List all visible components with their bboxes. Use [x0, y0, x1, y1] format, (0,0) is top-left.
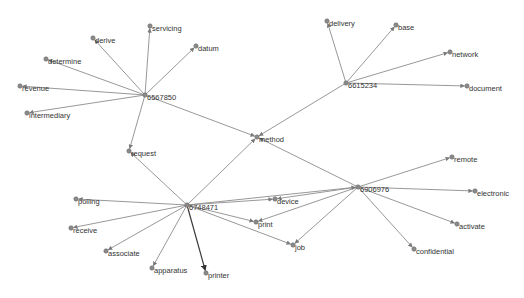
- edge-6906976-job: [295, 187, 358, 243]
- node-6906976[interactable]: 6906976: [356, 185, 389, 194]
- node-network[interactable]: network: [448, 50, 479, 59]
- node-label: servicing: [152, 24, 182, 33]
- node-label: job: [294, 243, 305, 252]
- node-datum[interactable]: datum: [194, 44, 219, 53]
- edge-6906976-method: [259, 138, 358, 187]
- node-label: method: [259, 135, 284, 144]
- node-method[interactable]: method: [255, 135, 284, 144]
- edge-6906976-remote: [358, 158, 450, 187]
- node-label: network: [452, 50, 479, 59]
- node-remote[interactable]: remote: [450, 155, 478, 164]
- node-electronic[interactable]: electronic: [473, 189, 510, 198]
- node-6567850[interactable]: 6567850: [143, 93, 176, 102]
- node-device[interactable]: device: [273, 197, 299, 206]
- node-6748471[interactable]: 6748471: [185, 203, 218, 212]
- node-base[interactable]: base: [394, 23, 414, 32]
- node-confidential[interactable]: confidential: [412, 247, 454, 256]
- node-print[interactable]: print: [254, 220, 274, 229]
- node-intermediary[interactable]: intermediary: [25, 111, 71, 120]
- node-label: delivery: [329, 19, 355, 28]
- edge-6615234-delivery: [328, 23, 346, 83]
- edge-6567850-datum: [145, 48, 194, 95]
- edge-6567850-derive: [95, 40, 145, 95]
- node-label: request: [131, 149, 157, 158]
- edge-6615234-base: [346, 27, 394, 83]
- node-activate[interactable]: activate: [455, 222, 485, 231]
- node-label: remote: [454, 155, 477, 164]
- node-servicing[interactable]: servicing: [148, 24, 182, 33]
- node-revenue[interactable]: revenue: [18, 84, 49, 93]
- node-label: intermediary: [29, 111, 71, 120]
- node-derive[interactable]: derive: [91, 36, 116, 45]
- node-label: revenue: [22, 84, 49, 93]
- edge-6748471-method: [187, 139, 255, 205]
- node-job[interactable]: job: [291, 243, 305, 252]
- node-label: base: [398, 23, 414, 32]
- node-request[interactable]: request: [127, 149, 157, 158]
- node-label: device: [277, 197, 299, 206]
- node-label: 6567850: [147, 93, 176, 102]
- node-polling[interactable]: polling: [74, 197, 100, 206]
- node-layer: 6567850661523469069766748471methodreques…: [18, 19, 510, 280]
- node-label: electronic: [477, 189, 509, 198]
- node-6615234[interactable]: 6615234: [344, 81, 377, 90]
- node-label: document: [469, 84, 503, 93]
- node-receive[interactable]: receive: [69, 226, 97, 235]
- node-label: receive: [73, 226, 97, 235]
- edge-6615234-method: [259, 83, 346, 136]
- node-label: polling: [78, 197, 100, 206]
- node-delivery[interactable]: delivery: [325, 19, 355, 28]
- edge-6748471-receive: [73, 205, 187, 228]
- node-label: determine: [48, 57, 81, 66]
- node-apparatus[interactable]: apparatus: [150, 266, 188, 275]
- node-associate[interactable]: associate: [104, 249, 140, 258]
- node-label: printer: [208, 271, 230, 280]
- edge-6615234-network: [346, 53, 448, 83]
- edge-6748471-printer: [187, 205, 205, 271]
- edge-6567850-request: [130, 95, 145, 149]
- edge-6567850-servicing: [145, 28, 150, 95]
- node-label: datum: [198, 44, 219, 53]
- node-label: apparatus: [154, 266, 188, 275]
- network-graph: 6567850661523469069766748471methodreques…: [0, 0, 524, 298]
- node-label: 6748471: [189, 203, 218, 212]
- node-label: associate: [108, 249, 140, 258]
- node-determine[interactable]: determine: [44, 57, 82, 66]
- node-label: derive: [95, 36, 115, 45]
- edge-6748471-associate: [108, 205, 187, 250]
- node-label: 6615234: [348, 81, 377, 90]
- edge-6567850-intermediary: [29, 95, 145, 113]
- node-printer[interactable]: printer: [204, 271, 230, 280]
- edge-6748471-request: [131, 153, 187, 205]
- node-document[interactable]: document: [465, 84, 503, 93]
- node-label: print: [258, 220, 274, 229]
- node-label: confidential: [416, 247, 454, 256]
- edge-6906976-confidential: [358, 187, 412, 247]
- node-label: 6906976: [360, 185, 389, 194]
- node-label: activate: [459, 222, 485, 231]
